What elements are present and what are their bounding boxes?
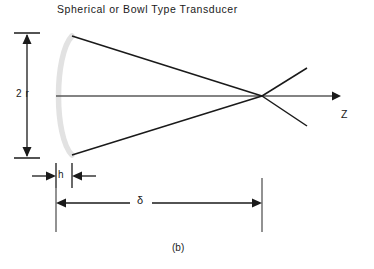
aperture-arrowhead-up <box>23 34 32 44</box>
figure-caption: (b) <box>172 243 184 253</box>
diagram-title: Spherical or Bowl Type Transducer <box>57 4 238 15</box>
aperture-label: 2 r <box>16 89 29 99</box>
ray-lower-diverging <box>262 68 307 96</box>
h-arrowhead-left <box>46 172 56 181</box>
figure-container: Spherical or Bowl Type Transducer 2 r h … <box>0 0 374 269</box>
ray-lower-converging <box>72 96 262 155</box>
h-arrowhead-right <box>72 172 82 181</box>
z-axis-arrowhead <box>332 92 341 101</box>
delta-arrowhead-right <box>252 199 262 208</box>
ray-upper-converging <box>72 36 262 96</box>
aperture-arrowhead-down <box>23 147 32 157</box>
z-axis-label: Z <box>341 109 347 120</box>
transducer-diagram <box>0 0 374 269</box>
delta-arrowhead-left <box>56 199 66 208</box>
bowl-depth-label: h <box>58 170 64 180</box>
ray-upper-diverging <box>262 96 307 126</box>
focal-distance-label: δ <box>137 195 143 206</box>
